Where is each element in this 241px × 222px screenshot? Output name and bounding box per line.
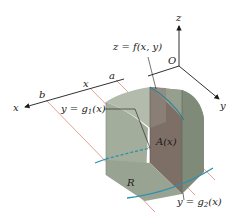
mark-x-label: x [83,78,89,89]
slice-upper-light [150,87,166,128]
mark-a-label: a [109,70,115,81]
mark-b-label: b [39,89,45,100]
z-axis-label: z [175,12,182,23]
cross-section-label: A(x) [155,136,177,147]
y-axis-label: y [219,100,226,111]
g1-label: y = g1(x) [60,103,106,116]
g2-label: y = g2(x) [176,196,222,209]
solid [106,87,204,201]
x-axis-label: x [13,102,19,113]
surface-label: z = f(x, y) [112,41,162,52]
region-label: R [126,177,135,188]
leader-surface [148,57,156,89]
origin-label: O [168,55,176,66]
curve-g1-solid [95,159,106,163]
volume-slicing-diagram: z O y x b x a z = f(x, y) y = g1(x) A(x)… [0,0,241,222]
